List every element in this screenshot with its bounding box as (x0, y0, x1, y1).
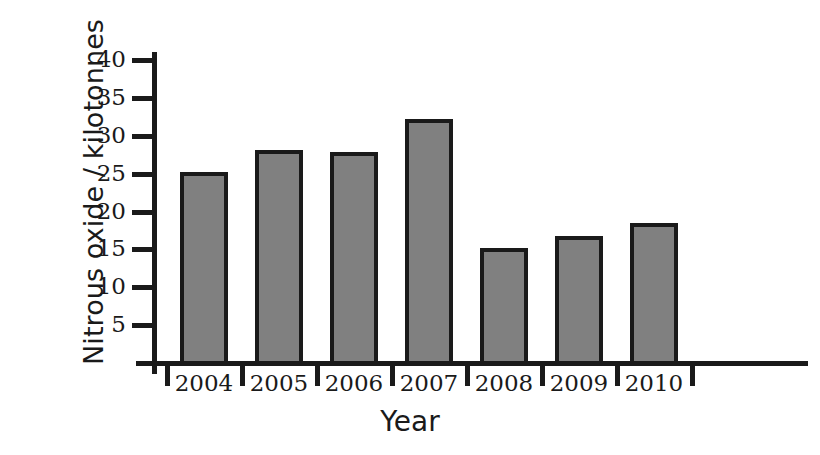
y-axis-tick-label: 5 (86, 313, 126, 336)
y-axis-tick (132, 323, 154, 328)
bar-2009 (555, 236, 603, 365)
y-axis-tick-label: 20 (86, 200, 126, 223)
x-axis-title: Year (0, 405, 820, 438)
x-axis-tick-label: 2010 (609, 372, 699, 395)
bar-2004 (180, 172, 228, 365)
y-axis-tick-label: 25 (86, 162, 126, 185)
y-axis-tick (132, 96, 154, 101)
y-axis-tick-label: 35 (86, 86, 126, 109)
bar-2005 (255, 150, 303, 365)
bar-2007 (405, 119, 453, 365)
y-axis-tick (132, 210, 154, 215)
y-axis-tick (132, 172, 154, 177)
x-axis-line (136, 361, 808, 366)
y-axis-tick-label: 15 (86, 237, 126, 260)
y-axis-tick (132, 247, 154, 252)
bar-2010 (630, 223, 678, 365)
y-axis-tick (132, 285, 154, 290)
bar-chart: Nitrous oxide / kilotonnes 5101520253035… (0, 0, 820, 455)
y-axis-tick (132, 134, 154, 139)
y-axis-tick (132, 58, 154, 63)
bar-2008 (480, 248, 528, 365)
plot-area: 510152025303540 200420052006200720082009… (0, 0, 820, 455)
y-axis-tick-label: 10 (86, 275, 126, 298)
bar-2006 (330, 152, 378, 365)
y-axis-tick-label: 30 (86, 124, 126, 147)
y-axis-tick-label: 40 (86, 48, 126, 71)
